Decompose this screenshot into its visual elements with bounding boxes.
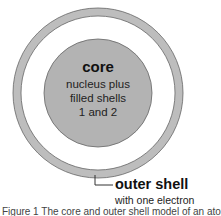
core-description: nucleus plus filled shells 1 and 2 [48,77,148,119]
outer-shell-sublabel: with one electron [115,194,194,206]
outer-shell-label: outer shell [115,176,188,192]
core-description-line: nucleus plus [48,77,148,91]
core-description-line: filled shells [48,91,148,105]
core-title: core [48,58,148,75]
figure-caption: Figure 1 The core and outer shell model … [2,206,221,216]
core-description-line: 1 and 2 [48,105,148,119]
